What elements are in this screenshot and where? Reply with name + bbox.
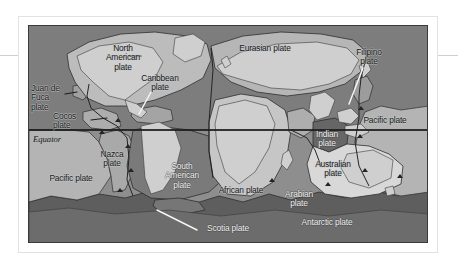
world-map-panel: North American plate Juan de Fuca plate …: [28, 25, 428, 243]
tectonic-plate-map-figure: North American plate Juan de Fuca plate …: [0, 0, 458, 267]
world-map-graphic: [29, 26, 428, 243]
